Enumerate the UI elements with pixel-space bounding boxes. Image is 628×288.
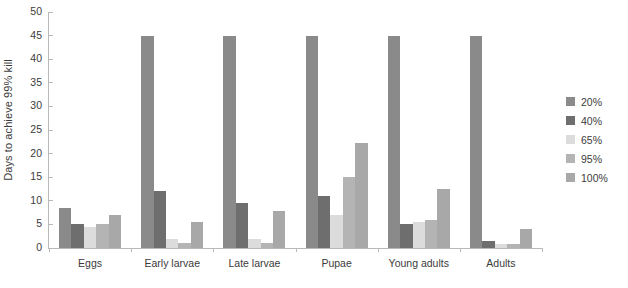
- legend-swatch-icon: [566, 116, 575, 125]
- bar-group-bars: [306, 12, 368, 248]
- legend-label: 20%: [581, 96, 602, 108]
- bar-95pct: [343, 177, 355, 248]
- bar-20pct: [306, 36, 318, 248]
- y-axis-tick-label: 10: [30, 194, 42, 206]
- bar-group-bars: [141, 12, 203, 248]
- y-axis-tick-label: 35: [30, 76, 42, 88]
- legend-swatch-icon: [566, 173, 575, 182]
- x-axis-tick-mark: [296, 248, 297, 252]
- x-axis-category-label: Young adults: [378, 257, 460, 269]
- legend-item-95pct: 95%: [566, 149, 626, 168]
- bar-100pct: [355, 143, 367, 248]
- legend-label: 65%: [581, 134, 602, 146]
- x-axis-category-label: Late larvae: [213, 257, 295, 269]
- y-axis-tick-label: 25: [30, 123, 42, 135]
- bar-group-bars: [388, 12, 450, 248]
- legend-item-20pct: 20%: [566, 92, 626, 111]
- legend-swatch-icon: [566, 154, 575, 163]
- bar-65pct: [166, 239, 178, 248]
- bar-group-early-larvae: Early larvae: [131, 12, 213, 248]
- y-axis-tick-label: 45: [30, 29, 42, 41]
- x-axis-tick-mark: [213, 248, 214, 252]
- bar-40pct: [154, 191, 166, 248]
- bar-95pct: [178, 243, 190, 248]
- legend-label: 95%: [581, 153, 602, 165]
- y-axis-tick-label: 20: [30, 147, 42, 159]
- x-axis-category-label: Eggs: [49, 257, 131, 269]
- bar-95pct: [425, 220, 437, 248]
- bar-20pct: [59, 208, 71, 248]
- bar-chart-figure: Days to achieve 99% kill 051015202530354…: [0, 0, 628, 288]
- bar-group-bars: [223, 12, 285, 248]
- bar-group-eggs: Eggs: [49, 12, 131, 248]
- legend-item-65pct: 65%: [566, 130, 626, 149]
- bar-95pct: [507, 244, 519, 248]
- x-axis-category-label: Early larvae: [131, 257, 213, 269]
- bar-20pct: [388, 36, 400, 248]
- bar-100pct: [520, 229, 532, 248]
- bar-95pct: [96, 224, 108, 248]
- x-axis-category-label: Pupae: [296, 257, 378, 269]
- x-axis-tick-mark: [460, 248, 461, 252]
- x-axis-tick-mark: [542, 248, 543, 252]
- bar-group-adults: Adults: [460, 12, 542, 248]
- bar-40pct: [71, 224, 83, 248]
- bar-20pct: [141, 36, 153, 248]
- y-axis-tick-label: 50: [30, 5, 42, 17]
- y-axis-tick-label: 15: [30, 170, 42, 182]
- legend-item-100pct: 100%: [566, 168, 626, 187]
- y-axis-tick-label: 30: [30, 99, 42, 111]
- x-axis-tick-mark: [49, 248, 50, 252]
- x-axis-tick-mark: [131, 248, 132, 252]
- y-axis-title: Days to achieve 99% kill: [2, 0, 20, 240]
- x-axis-category-label: Adults: [460, 257, 542, 269]
- bar-20pct: [470, 36, 482, 248]
- bar-65pct: [495, 244, 507, 248]
- legend-swatch-icon: [566, 135, 575, 144]
- legend-item-40pct: 40%: [566, 111, 626, 130]
- bar-40pct: [236, 203, 248, 248]
- bar-65pct: [84, 227, 96, 248]
- bar-40pct: [482, 241, 494, 248]
- bar-95pct: [261, 243, 273, 248]
- bar-100pct: [273, 211, 285, 248]
- y-axis-tick-label: 40: [30, 52, 42, 64]
- y-axis-tick-label: 5: [36, 217, 42, 229]
- bar-65pct: [413, 222, 425, 248]
- bar-group-pupae: Pupae: [296, 12, 378, 248]
- bar-65pct: [248, 239, 260, 248]
- bar-65pct: [330, 215, 342, 248]
- bar-group-bars: [59, 12, 121, 248]
- legend-label: 100%: [581, 172, 608, 184]
- x-axis-tick-mark: [378, 248, 379, 252]
- chart-legend: 20%40%65%95%100%: [566, 92, 626, 187]
- bar-40pct: [318, 196, 330, 248]
- bar-20pct: [223, 36, 235, 248]
- bar-100pct: [437, 189, 449, 248]
- bar-40pct: [400, 224, 412, 248]
- bar-groups: EggsEarly larvaeLate larvaePupaeYoung ad…: [49, 12, 542, 248]
- y-axis-tick-label: 0: [36, 241, 42, 253]
- legend-label: 40%: [581, 115, 602, 127]
- bar-100pct: [191, 222, 203, 248]
- bar-group-late-larvae: Late larvae: [213, 12, 295, 248]
- bar-group-young-adults: Young adults: [378, 12, 460, 248]
- plot-area: 05101520253035404550 EggsEarly larvaeLat…: [48, 12, 542, 249]
- legend-swatch-icon: [566, 97, 575, 106]
- bar-group-bars: [470, 12, 532, 248]
- bar-100pct: [109, 215, 121, 248]
